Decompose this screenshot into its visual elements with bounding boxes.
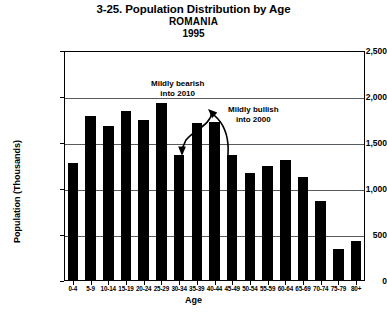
- x-tick-label: 50-54: [241, 285, 259, 292]
- bar: [280, 160, 291, 281]
- chart-subtitle-country: ROMANIA: [0, 16, 387, 28]
- x-tick-label: 35-39: [188, 285, 206, 292]
- bar: [298, 177, 309, 281]
- bar: [333, 249, 344, 281]
- annotation-mildly-bullish: Mildly bullish into 2000: [228, 105, 279, 124]
- x-tick-label: 60-64: [276, 285, 294, 292]
- y-tick-mark: [60, 281, 64, 282]
- x-tick-label: 25-29: [153, 285, 171, 292]
- x-tick-label: 15-19: [117, 285, 135, 292]
- bar: [209, 122, 220, 281]
- annotation-bearish-line1: Mildly bearish: [151, 79, 204, 89]
- bar: [351, 241, 362, 281]
- x-tick-label: 45-49: [223, 285, 241, 292]
- annotation-bullish-line1: Mildly bullish: [228, 105, 279, 115]
- bar: [174, 155, 185, 281]
- bar: [85, 116, 96, 281]
- x-tick-label: 65-69: [294, 285, 312, 292]
- bar: [227, 155, 238, 281]
- x-tick-label: 0-4: [64, 285, 82, 292]
- x-tick-label: 30-34: [170, 285, 188, 292]
- bar-series: [64, 51, 365, 281]
- annotation-bearish-line2: into 2010: [151, 89, 204, 99]
- x-tick-label: 55-59: [259, 285, 277, 292]
- chart-figure: 3-25. Population Distribution by Age ROM…: [0, 0, 387, 323]
- bar: [315, 201, 326, 281]
- x-tick-label: 10-14: [99, 285, 117, 292]
- x-tick-label: 70-74: [312, 285, 330, 292]
- chart-subtitle-year: 1995: [0, 28, 387, 40]
- annotation-bullish-line2: into 2000: [228, 115, 279, 125]
- bar: [103, 126, 114, 281]
- x-tick-label: 20-24: [135, 285, 153, 292]
- chart-title-block: 3-25. Population Distribution by Age ROM…: [0, 3, 387, 40]
- x-tick-label: 40-44: [206, 285, 224, 292]
- y-axis-title: Population (Thousands): [12, 140, 22, 243]
- annotation-mildly-bearish: Mildly bearish into 2010: [151, 79, 204, 98]
- bar: [245, 173, 256, 281]
- x-tick-label: 80+: [347, 285, 365, 292]
- x-axis-title: Age: [0, 295, 387, 305]
- bar: [68, 163, 79, 281]
- bar: [262, 166, 273, 281]
- bar: [121, 111, 132, 281]
- x-tick-label: 75-79: [330, 285, 348, 292]
- x-tick-label: 5-9: [82, 285, 100, 292]
- bar: [192, 123, 203, 281]
- bar: [156, 103, 167, 281]
- bar: [138, 120, 149, 281]
- page-title: 3-25. Population Distribution by Age: [0, 3, 387, 16]
